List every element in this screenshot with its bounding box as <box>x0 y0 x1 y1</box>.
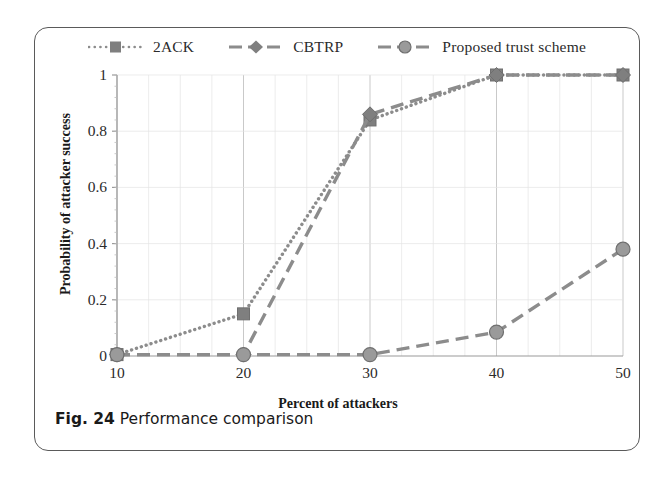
figure-caption: Fig. 24 Performance comparison <box>55 410 313 428</box>
x-tick-label: 30 <box>348 364 392 382</box>
x-tick-label: 40 <box>475 364 519 382</box>
plot-area: 00.20.40.60.81 1020304050 Percent of att… <box>35 28 641 452</box>
x-tick-label: 10 <box>95 364 139 382</box>
data-point-marker <box>237 348 251 362</box>
y-tick-label: 0.4 <box>73 235 107 253</box>
data-point-marker <box>363 348 377 362</box>
data-point-marker <box>238 308 250 320</box>
chart-canvas <box>35 28 641 452</box>
data-point-marker <box>110 348 124 362</box>
y-tick-label: 0.6 <box>73 178 107 196</box>
figure-caption-number: Fig. 24 <box>55 410 115 428</box>
y-tick-label: 0.8 <box>73 122 107 140</box>
data-point-marker <box>490 325 504 339</box>
figure-card: 2ACK CBTRP Proposed trust scheme <box>34 27 640 451</box>
y-axis-title: Probability of attacker success <box>58 89 74 319</box>
x-tick-label: 20 <box>222 364 266 382</box>
y-tick-label: 0 <box>73 347 107 365</box>
data-point-marker <box>616 242 630 256</box>
y-tick-label: 1 <box>73 66 107 84</box>
x-tick-label: 50 <box>601 364 645 382</box>
figure-caption-text: Performance comparison <box>120 410 314 428</box>
y-tick-label: 0.2 <box>73 291 107 309</box>
